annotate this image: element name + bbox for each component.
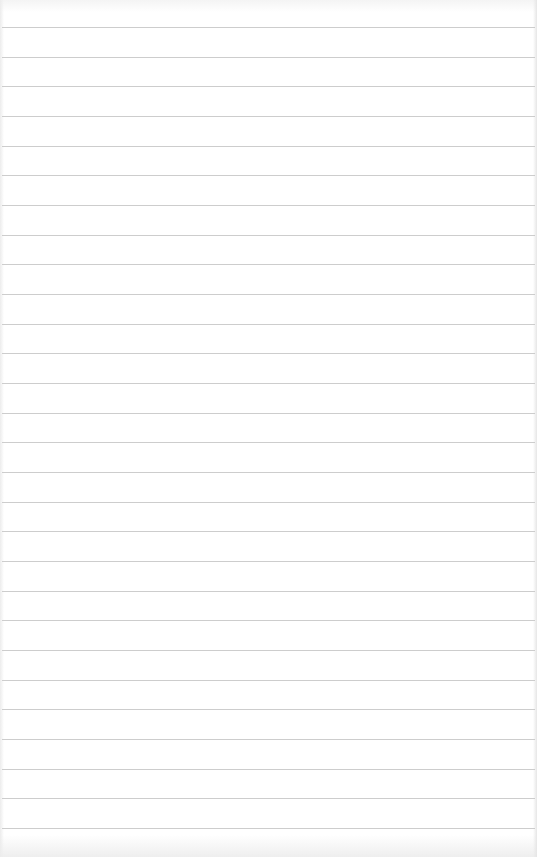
ruled-line [2,650,535,651]
ruled-line [2,86,535,87]
lined-paper-sheet [0,0,537,857]
ruled-line [2,442,535,443]
ruled-line [2,591,535,592]
ruled-line [2,324,535,325]
ruled-line [2,353,535,354]
ruled-line [2,472,535,473]
paper-left-edge [0,0,4,857]
ruled-line [2,235,535,236]
ruled-line [2,828,535,829]
ruled-line [2,680,535,681]
ruled-line [2,798,535,799]
ruled-line [2,620,535,621]
ruled-line [2,383,535,384]
ruled-line [2,413,535,414]
ruled-line [2,739,535,740]
ruled-line [2,561,535,562]
ruled-line [2,57,535,58]
paper-right-edge [533,0,537,857]
ruled-line [2,502,535,503]
ruled-line [2,175,535,176]
ruled-line [2,27,535,28]
ruled-line [2,531,535,532]
ruled-line [2,294,535,295]
ruled-line [2,146,535,147]
ruled-line [2,709,535,710]
ruled-line [2,264,535,265]
ruled-line [2,205,535,206]
ruled-line [2,116,535,117]
ruled-line [2,769,535,770]
